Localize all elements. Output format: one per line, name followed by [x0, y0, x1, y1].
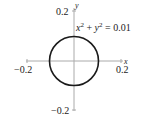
plot-canvas: −0.2 0.2 0.2 −0.2 x y x2 + y2 = 0.01	[0, 0, 142, 125]
y-tick-label-pos: 0.2	[56, 6, 69, 17]
x-tick-label-neg: −0.2	[14, 64, 32, 75]
eq-plus: +	[84, 22, 95, 33]
equation-annotation: x2 + y2 = 0.01	[75, 21, 131, 33]
eq-rhs: = 0.01	[103, 22, 131, 33]
y-tick-label-neg: −0.2	[51, 105, 69, 116]
y-axis-label: y	[74, 1, 79, 10]
x-axis-label: x	[123, 57, 128, 66]
